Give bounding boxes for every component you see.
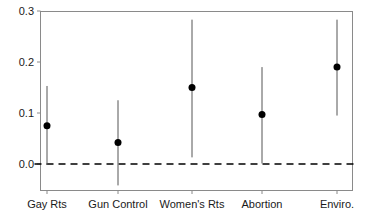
x-tick-label: Gay Rts [27, 199, 67, 210]
x-axis-tick-labels: Gay RtsGun ControlWomen's RtsAbortionEnv… [0, 0, 370, 218]
x-tick-label: Women's Rts [160, 199, 225, 210]
coefficient-plot: 0.00.10.20.3 Gay RtsGun ControlWomen's R… [0, 0, 370, 218]
x-tick-label: Abortion [242, 199, 283, 210]
x-tick-label: Enviro. [320, 199, 354, 210]
x-tick-label: Gun Control [88, 199, 147, 210]
